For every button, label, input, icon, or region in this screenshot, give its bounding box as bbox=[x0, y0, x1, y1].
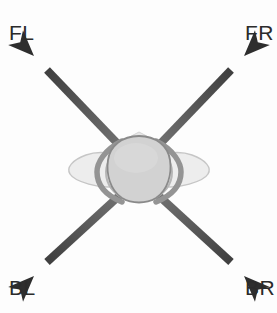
drone-hull-highlight bbox=[114, 143, 158, 173]
diagram-canvas bbox=[0, 0, 277, 313]
label-front-left: FL bbox=[9, 22, 35, 43]
label-front-right: FR bbox=[245, 22, 274, 43]
quadrotor-diagram: FL FR BL BR bbox=[0, 0, 277, 313]
label-back-left: BL bbox=[9, 277, 36, 298]
label-back-right: BR bbox=[245, 277, 275, 298]
